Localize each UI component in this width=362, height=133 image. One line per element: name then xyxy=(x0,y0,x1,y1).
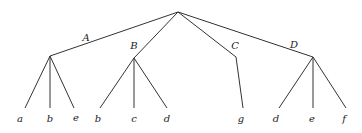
edge-root-to-d xyxy=(178,12,313,57)
edge-a-to-e xyxy=(50,56,74,108)
node-label-c-upper: C xyxy=(231,40,239,51)
edge-b-to-d xyxy=(134,58,167,108)
edge-d-to-d xyxy=(279,57,313,108)
tree-edges xyxy=(0,0,362,133)
leaf-label-b: b xyxy=(47,113,53,124)
edge-c-to-g xyxy=(236,57,243,108)
node-label-b-upper: B xyxy=(130,40,137,51)
leaf-label-d: d xyxy=(273,113,279,124)
leaf-label-b: b xyxy=(95,113,101,124)
leaf-label-f: f xyxy=(342,113,346,124)
edge-root-to-c xyxy=(178,12,236,57)
leaf-label-e: e xyxy=(309,113,315,124)
node-label-a-upper: A xyxy=(82,32,89,43)
leaf-label-c: c xyxy=(131,113,137,124)
node-label-d-upper: D xyxy=(290,39,298,50)
edge-d-to-f xyxy=(313,57,346,108)
leaf-label-e: e xyxy=(73,112,79,123)
leaf-label-d: d xyxy=(164,113,170,124)
edge-a-to-a xyxy=(25,56,50,108)
edge-root-to-b xyxy=(134,12,178,58)
tree-diagram: A B C D a b e b c d g d e f xyxy=(0,0,362,133)
leaf-label-a: a xyxy=(17,113,23,124)
leaf-label-g: g xyxy=(238,113,244,124)
edge-root-to-a xyxy=(50,12,178,56)
edge-b-to-b xyxy=(100,58,134,108)
